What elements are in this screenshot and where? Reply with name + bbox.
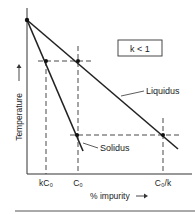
solidus-label: Solidus <box>100 143 130 153</box>
tick-c0: C₀ <box>73 178 83 188</box>
liquidus-leader <box>121 91 144 96</box>
x-arrowhead-icon <box>144 194 148 199</box>
guide-lines <box>38 46 180 174</box>
solidus-leader <box>83 143 98 148</box>
y-axis-label-group: Temperature <box>14 64 24 141</box>
liquidus-label: Liquidus <box>146 86 180 96</box>
liquidus-line <box>27 20 178 149</box>
tick-kc0: kC₀ <box>39 178 53 188</box>
solidus-line <box>27 20 83 151</box>
x-axis-label: % impurity <box>90 191 130 201</box>
phase-diagram: k < 1 Liquidus Solidus Temperature kC₀ C… <box>0 0 195 214</box>
condition-label: k < 1 <box>130 44 150 54</box>
y-arrowhead-icon <box>17 64 22 68</box>
y-axis-label: Temperature <box>14 93 24 141</box>
tick-c0-over-k: C₀/k <box>155 178 172 188</box>
